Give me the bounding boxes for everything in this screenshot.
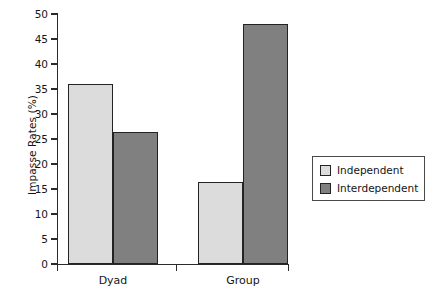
y-tick-50 bbox=[51, 13, 57, 14]
y-tick-30 bbox=[51, 113, 57, 114]
y-tick-label-10: 10 bbox=[8, 209, 48, 220]
y-axis-line bbox=[57, 13, 58, 265]
bar-chart: Impasse Rates (%) 05101520253035404550 D… bbox=[0, 0, 431, 301]
y-tick-label-30: 30 bbox=[8, 109, 48, 120]
legend-item-independent: Independent bbox=[320, 162, 424, 179]
x-tick-0 bbox=[57, 264, 58, 271]
y-tick-15 bbox=[51, 188, 57, 189]
y-tick-label-40: 40 bbox=[8, 59, 48, 70]
x-tick-1 bbox=[176, 264, 177, 271]
y-tick-35 bbox=[51, 88, 57, 89]
y-tick-5 bbox=[51, 238, 57, 239]
y-tick-label-15: 15 bbox=[8, 184, 48, 195]
x-axis-label-dyad: Dyad bbox=[68, 274, 158, 287]
legend-label-independent: Independent bbox=[337, 165, 404, 176]
y-tick-40 bbox=[51, 63, 57, 64]
y-tick-label-20: 20 bbox=[8, 159, 48, 170]
x-axis-label-group: Group bbox=[198, 274, 288, 287]
y-tick-20 bbox=[51, 163, 57, 164]
light-gray-swatch-icon bbox=[320, 165, 331, 176]
y-tick-45 bbox=[51, 38, 57, 39]
y-tick-label-0: 0 bbox=[8, 259, 48, 270]
dark-gray-swatch-icon bbox=[320, 183, 331, 194]
chart-legend: Independent Interdependent bbox=[312, 156, 425, 201]
bar-group-independent bbox=[198, 182, 243, 265]
x-tick-2 bbox=[288, 264, 289, 271]
bar-group-interdependent bbox=[243, 24, 288, 264]
y-tick-label-35: 35 bbox=[8, 84, 48, 95]
legend-label-interdependent: Interdependent bbox=[337, 183, 418, 194]
y-tick-label-25: 25 bbox=[8, 134, 48, 145]
bar-dyad-independent bbox=[68, 84, 113, 264]
y-tick-25 bbox=[51, 138, 57, 139]
y-tick-10 bbox=[51, 213, 57, 214]
y-tick-label-5: 5 bbox=[8, 234, 48, 245]
bar-dyad-interdependent bbox=[113, 132, 158, 264]
legend-item-interdependent: Interdependent bbox=[320, 180, 424, 197]
y-tick-label-50: 50 bbox=[8, 9, 48, 20]
y-tick-label-45: 45 bbox=[8, 34, 48, 45]
